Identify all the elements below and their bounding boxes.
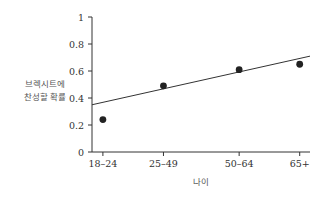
data-point: [160, 82, 167, 89]
data-point: [100, 116, 107, 123]
data-point: [236, 66, 243, 73]
fit-line-group: [92, 56, 310, 105]
y-tick-label: 0: [78, 147, 84, 158]
x-tick-label: 50–64: [225, 158, 254, 169]
x-tick-label: 18–24: [88, 158, 117, 169]
y-tick-label: 0.8: [69, 39, 84, 50]
y-tick-label: 0.6: [69, 66, 84, 77]
y-tick-label: 1: [78, 12, 84, 23]
x-tick-label: 25–49: [149, 158, 178, 169]
y-tick-label: 0.2: [69, 120, 84, 131]
chart: 브렉시트에 찬성할 확률 00.20.40.60.81 18–2425–4950…: [0, 0, 329, 200]
fit-line: [92, 56, 310, 105]
x-ticks: 18–2425–4950–6465+: [88, 152, 309, 169]
y-tick-label: 0.4: [69, 93, 84, 104]
axes: [92, 17, 310, 152]
x-axis-title: 나이: [193, 177, 209, 187]
data-point: [296, 61, 303, 68]
y-axis-title-line-2: 찬성할 확률: [24, 92, 67, 102]
x-tick-label: 65+: [290, 158, 310, 169]
y-axis-title: 브렉시트에 찬성할 확률: [24, 79, 67, 102]
y-ticks: 00.20.40.60.81: [69, 12, 92, 158]
y-axis-title-line-1: 브렉시트에: [25, 79, 65, 89]
data-points: [100, 61, 304, 123]
